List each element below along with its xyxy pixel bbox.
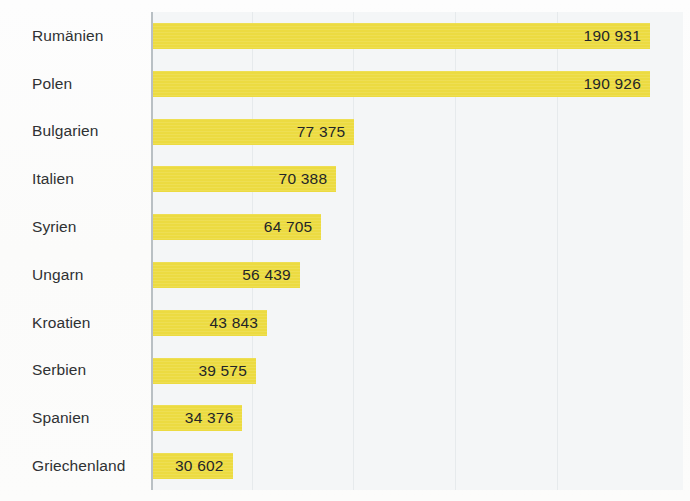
category-label: Griechenland	[32, 457, 147, 475]
bar-row: Polen190 926	[0, 60, 690, 108]
bar: 77 375	[153, 119, 354, 145]
bar-value-label: 30 602	[175, 457, 224, 475]
bar-value-label: 43 843	[210, 314, 259, 332]
bar-row: Syrien64 705	[0, 203, 690, 251]
bar: 190 926	[153, 71, 650, 97]
bar-container: 70 388	[153, 166, 336, 192]
bar: 30 602	[153, 453, 233, 479]
category-label: Rumänien	[32, 27, 147, 45]
bar-container: 30 602	[153, 453, 233, 479]
category-label: Serbien	[32, 361, 147, 379]
bar-value-label: 56 439	[242, 266, 291, 284]
bar-container: 64 705	[153, 214, 321, 240]
bar: 56 439	[153, 262, 300, 288]
bar: 43 843	[153, 310, 267, 336]
bar-container: 190 926	[153, 71, 650, 97]
bar-rows: Rumänien190 931Polen190 926Bulgarien77 3…	[0, 12, 690, 490]
bar-value-label: 64 705	[264, 218, 313, 236]
bar-value-label: 77 375	[297, 123, 346, 141]
bar-container: 43 843	[153, 310, 267, 336]
bar: 64 705	[153, 214, 321, 240]
bar: 190 931	[153, 23, 650, 49]
bar: 34 376	[153, 405, 242, 431]
category-label: Italien	[32, 170, 147, 188]
bar-row: Italien70 388	[0, 155, 690, 203]
category-label: Bulgarien	[32, 122, 147, 140]
category-label: Syrien	[32, 218, 147, 236]
bar-row: Serbien39 575	[0, 347, 690, 395]
category-label: Kroatien	[32, 314, 147, 332]
bar-container: 34 376	[153, 405, 242, 431]
bar-row: Kroatien43 843	[0, 299, 690, 347]
category-label: Ungarn	[32, 266, 147, 284]
bar-value-label: 34 376	[185, 409, 234, 427]
bar-container: 56 439	[153, 262, 300, 288]
bar-row: Rumänien190 931	[0, 12, 690, 60]
bar-value-label: 39 575	[198, 362, 247, 380]
bar-row: Ungarn56 439	[0, 251, 690, 299]
bar-row: Bulgarien77 375	[0, 108, 690, 156]
horizontal-bar-chart: Rumänien190 931Polen190 926Bulgarien77 3…	[0, 0, 690, 501]
category-label: Spanien	[32, 409, 147, 427]
bar-value-label: 190 926	[584, 75, 641, 93]
bar-value-label: 70 388	[279, 170, 328, 188]
bar: 70 388	[153, 166, 336, 192]
bar-container: 39 575	[153, 358, 256, 384]
bar-row: Spanien34 376	[0, 394, 690, 442]
category-label: Polen	[32, 75, 147, 93]
bar-container: 77 375	[153, 119, 354, 145]
bar-value-label: 190 931	[584, 27, 641, 45]
bar-row: Griechenland30 602	[0, 442, 690, 490]
bar: 39 575	[153, 358, 256, 384]
bar-container: 190 931	[153, 23, 650, 49]
